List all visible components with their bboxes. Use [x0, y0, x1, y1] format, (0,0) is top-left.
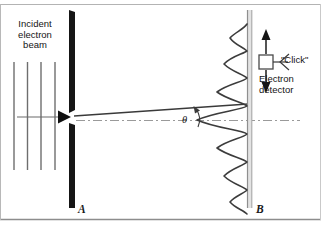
- detector-box[interactable]: [259, 55, 273, 69]
- beam-direction-arrow: [17, 111, 71, 124]
- diffraction-figure: Incident electron beam "Click" Electron …: [0, 0, 321, 231]
- theta-angle-label: θ: [182, 114, 187, 126]
- barrier-a: [69, 10, 75, 208]
- diffracted-ray: [74, 104, 248, 116]
- intensity-curve: [197, 24, 247, 214]
- click-label: "Click": [281, 55, 308, 66]
- detector-up-arrowhead: [262, 29, 271, 40]
- barrier-a-label: A: [78, 203, 86, 215]
- incident-beam-label: Incident electron beam: [6, 19, 64, 51]
- electron-detector-label: Electron detector: [259, 73, 294, 95]
- incident-wavefronts: [14, 62, 55, 170]
- screen-b: [247, 10, 252, 208]
- screen-b-label: B: [256, 203, 264, 215]
